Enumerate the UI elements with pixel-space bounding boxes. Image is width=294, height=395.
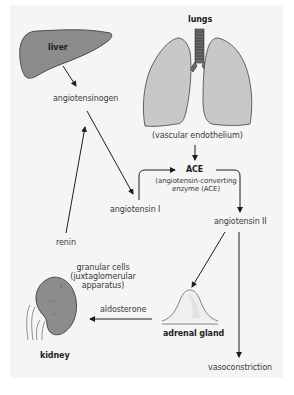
renin-label: renin: [56, 238, 76, 247]
granular-cells-line3: apparatus): [66, 281, 140, 290]
arrow-angiotensin-ii-to-adrenal: [192, 232, 225, 287]
arrow-renin: [66, 127, 85, 233]
angiotensin-i-label: angiotensin I: [110, 205, 160, 214]
lungs-label: lungs: [188, 15, 212, 24]
adrenal-gland-icon: [162, 290, 218, 324]
ace-full-name: (angiotensin-converting enzyme (ACE): [154, 177, 238, 193]
ace-full-line1: (angiotensin-converting: [154, 177, 238, 185]
angiotensinogen-label: angiotensinogen: [53, 94, 118, 103]
vascular-endothelium-label: (vascular endothelium): [152, 131, 243, 140]
ace-full-line2: enzyme (ACE): [154, 185, 238, 193]
angiotensin-ii-label: angiotensin II: [214, 217, 267, 226]
arrow-liver-to-angiotensinogen: [63, 66, 76, 86]
vasoconstriction-label: vasoconstriction: [208, 363, 272, 372]
ace-label: ACE: [186, 165, 203, 174]
aldosterone-label: aldosterone: [100, 305, 146, 314]
granular-cells-label: granular cells (juxtaglomerular apparatu…: [66, 263, 140, 291]
lungs-icon: [143, 29, 251, 126]
liver-label: liver: [48, 43, 68, 52]
diagram-artwork: [0, 0, 294, 395]
arrow-angiotensinogen-to-angiotensin-i: [87, 111, 133, 194]
adrenal-gland-label: adrenal gland: [163, 329, 224, 338]
granular-cells-line2: (juxtaglomerular: [66, 272, 140, 281]
granular-cells-line1: granular cells: [66, 263, 140, 272]
kidney-label: kidney: [40, 351, 70, 360]
